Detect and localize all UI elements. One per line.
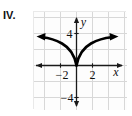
problem-number-label: IV. <box>3 9 15 21</box>
x-tick-label-neg2: −2 <box>56 68 69 82</box>
y-tick-label-pos4: 4 <box>67 27 73 41</box>
y-axis-label: y <box>80 15 87 29</box>
figure-container: IV. <box>0 0 132 116</box>
coordinate-plane-svg: −2 2 4 −4 x y <box>34 12 127 110</box>
graph-plot-area: −2 2 4 −4 x y <box>33 11 126 109</box>
y-tick-label-neg4: −4 <box>61 91 74 105</box>
x-tick-label-pos2: 2 <box>90 68 96 82</box>
x-axis-label: x <box>112 65 119 79</box>
